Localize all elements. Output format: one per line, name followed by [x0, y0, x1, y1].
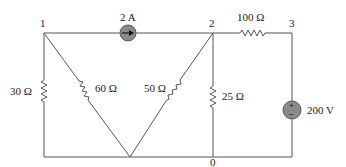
wire-r50-to-ground: [130, 101, 166, 157]
resistor-25-ohm: [210, 86, 216, 108]
resistor-60-label: 60 Ω: [95, 82, 117, 94]
wire-1-to-r60: [44, 33, 79, 81]
resistor-25-label: 25 Ω: [222, 90, 244, 102]
resistor-100-label: 100 Ω: [237, 11, 264, 23]
resistor-50-ohm: [166, 80, 181, 101]
current-source-2a: [120, 25, 136, 41]
resistor-50-label: 50 Ω: [144, 82, 166, 94]
resistor-30-label: 30 Ω: [10, 85, 32, 97]
circuit-diagram: 2 A 100 Ω + − 200 V 30 Ω 60 Ω 50 Ω 25 Ω …: [0, 0, 346, 167]
resistor-60-ohm: [79, 81, 89, 100]
voltage-source-200v: + −: [283, 101, 301, 119]
plus-symbol: +: [289, 101, 294, 110]
current-source-label: 2 A: [120, 11, 136, 23]
wire-r60-to-ground: [88, 100, 130, 157]
node-1-label: 1: [40, 17, 46, 29]
node-3-label: 3: [289, 17, 295, 29]
resistor-30-ohm: [41, 80, 47, 102]
node-2-label: 2: [209, 17, 215, 29]
minus-symbol: −: [289, 110, 294, 119]
resistor-100-ohm: [240, 30, 265, 36]
wire-2-to-r50: [180, 33, 213, 80]
voltage-source-label: 200 V: [307, 104, 334, 116]
node-0-label: 0: [210, 156, 216, 167]
